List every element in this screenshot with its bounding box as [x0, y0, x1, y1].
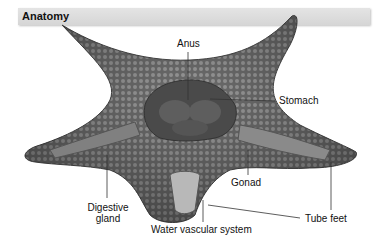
- label-tube-feet: Tube feet: [305, 213, 347, 224]
- label-digestive-gland: Digestive gland: [86, 202, 130, 224]
- label-stomach: Stomach: [279, 95, 318, 106]
- label-anus: Anus: [177, 38, 200, 49]
- water-vascular-region: [170, 171, 200, 214]
- label-water-vascular-system: Water vascular system: [151, 224, 252, 235]
- label-gonad: Gonad: [231, 177, 261, 188]
